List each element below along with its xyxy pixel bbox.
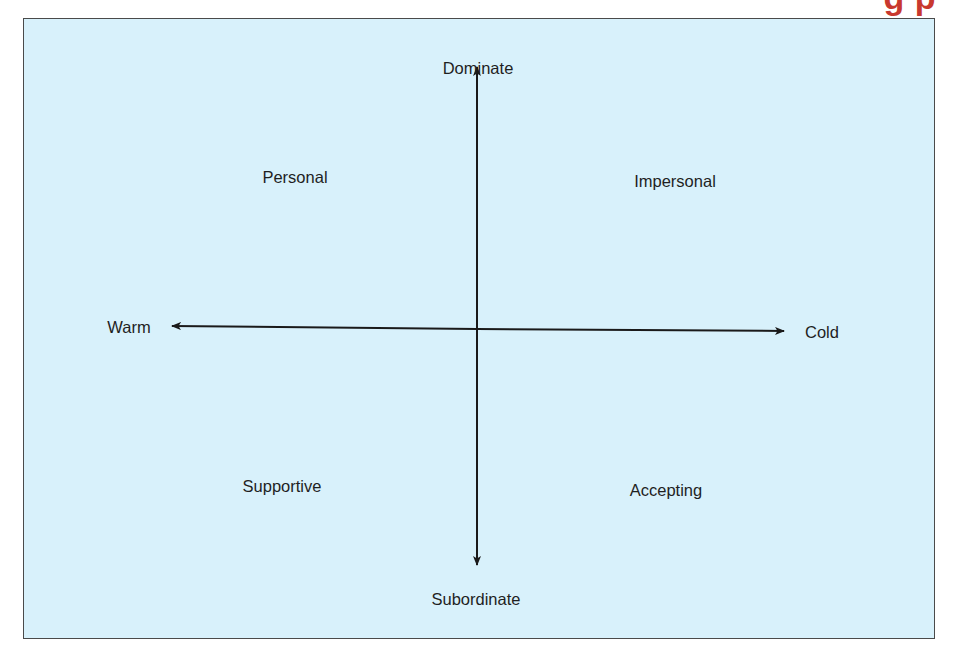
quadrant-label-supportive: Supportive <box>243 477 322 496</box>
quadrant-label-personal: Personal <box>262 168 327 187</box>
axis-label-cold: Cold <box>805 323 839 342</box>
axis-label-warm: Warm <box>107 318 150 337</box>
axis-label-subordinate: Subordinate <box>432 590 521 609</box>
quadrant-label-accepting: Accepting <box>630 481 702 500</box>
quadrant-label-impersonal: Impersonal <box>634 172 716 191</box>
axis-label-dominate: Dominate <box>443 59 514 78</box>
